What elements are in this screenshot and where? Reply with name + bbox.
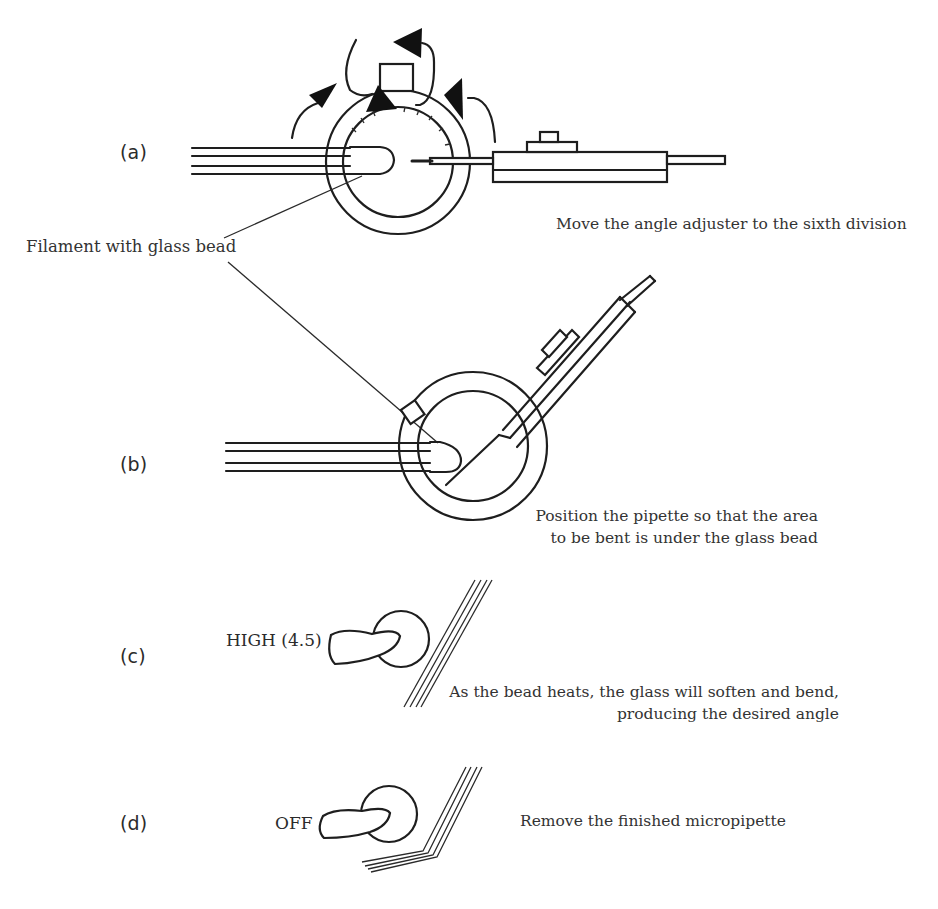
panel-d-artwork <box>320 767 482 872</box>
angle-division-ticks-icon <box>352 107 450 145</box>
caption-a: Move the angle adjuster to the sixth div… <box>556 213 907 235</box>
knob-setting-high: HIGH (4.5) <box>226 630 322 650</box>
caption-c-line-2: producing the desired angle <box>449 703 839 725</box>
caption-b-line-2: to be bent is under the glass bead <box>535 527 818 549</box>
callout-filament-label: Filament with glass bead <box>26 236 236 258</box>
caption-b: Position the pipette so that the area to… <box>535 505 818 549</box>
panel-b-artwork <box>226 262 655 520</box>
panel-a-artwork <box>192 28 725 238</box>
adjuster-block-icon <box>380 64 413 91</box>
knob-pointer-d-icon <box>320 809 390 838</box>
caption-a-line-1: Move the angle adjuster to the sixth div… <box>556 213 907 235</box>
knob-setting-off: OFF <box>275 813 313 833</box>
caption-b-line-1: Position the pipette so that the area <box>535 505 818 527</box>
caption-d-line-1: Remove the finished micropipette <box>520 810 786 832</box>
panel-label-c: (c) <box>120 645 146 667</box>
micropipette-bending-diagram: (a) (b) (c) (d) Filament with glass bead… <box>0 0 938 909</box>
caption-d: Remove the finished micropipette <box>520 810 786 832</box>
knob-pointer-c-icon <box>329 631 400 664</box>
panel-label-d: (d) <box>120 812 148 834</box>
glass-bead-icon <box>350 147 394 174</box>
caption-c-line-1: As the bead heats, the glass will soften… <box>449 681 839 703</box>
panel-label-b: (b) <box>120 453 148 475</box>
angled-pipette-icon <box>446 276 655 485</box>
pipette-holder-icon <box>412 132 725 182</box>
heater-inner-ring-b-icon <box>418 391 528 501</box>
glass-bead-b-icon <box>430 442 461 472</box>
caption-c: As the bead heats, the glass will soften… <box>449 681 839 725</box>
heater-outer-ring-b-icon <box>399 372 547 520</box>
panel-label-a: (a) <box>120 141 147 163</box>
